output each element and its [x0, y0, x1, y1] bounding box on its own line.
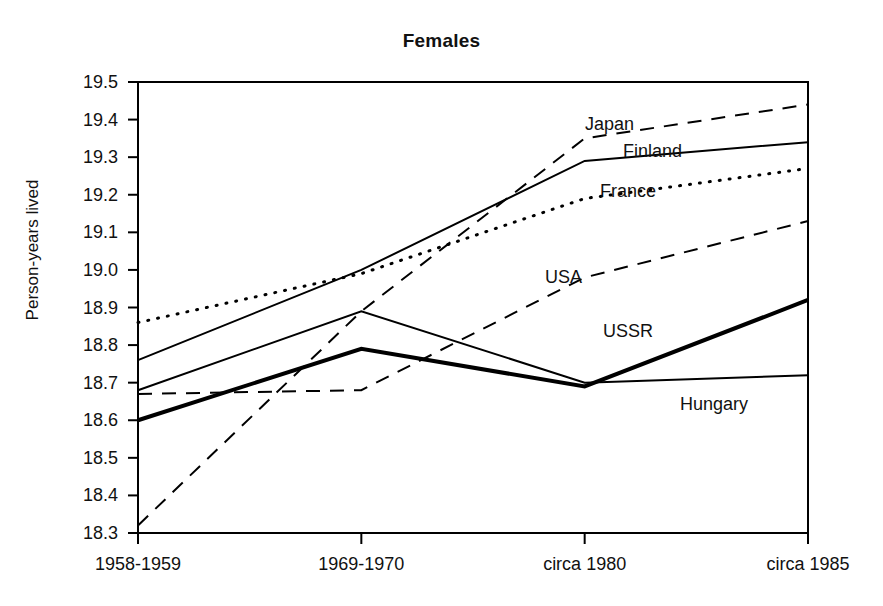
plot-area	[0, 0, 883, 606]
x-axis-ticks	[138, 533, 808, 544]
series-label-finland: Finland	[623, 142, 682, 160]
series-label-japan: Japan	[585, 115, 634, 133]
y-tick-label: 18.3	[52, 524, 118, 542]
y-tick-label: 19.4	[52, 111, 118, 129]
series-label-usa: USA	[545, 268, 582, 286]
y-tick-label: 18.6	[52, 411, 118, 429]
series-line-hungary	[138, 311, 808, 390]
y-tick-label: 19.2	[52, 186, 118, 204]
y-tick-label: 18.5	[52, 449, 118, 467]
series-lines	[138, 105, 808, 526]
y-tick-label: 18.7	[52, 374, 118, 392]
y-tick-label: 19.0	[52, 261, 118, 279]
x-tick-label: circa 1980	[505, 555, 665, 573]
y-tick-label: 19.3	[52, 148, 118, 166]
series-label-ussr: USSR	[603, 322, 653, 340]
y-tick-label: 18.8	[52, 336, 118, 354]
x-tick-label: 1969-1970	[281, 555, 441, 573]
x-tick-label: circa 1985	[728, 555, 883, 573]
x-tick-label: 1958-1959	[58, 555, 218, 573]
series-label-hungary: Hungary	[680, 395, 748, 413]
y-tick-label: 19.1	[52, 223, 118, 241]
y-tick-label: 18.9	[52, 299, 118, 317]
series-line-finland	[138, 142, 808, 360]
chart-figure: Females Person-years lived 18.318.418.51…	[0, 0, 883, 606]
series-line-japan	[138, 105, 808, 526]
y-tick-label: 19.5	[52, 73, 118, 91]
y-axis-ticks	[128, 82, 138, 533]
y-tick-label: 18.4	[52, 486, 118, 504]
series-label-france: France	[600, 182, 656, 200]
